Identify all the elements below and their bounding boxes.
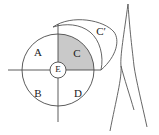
right-curve-outer-right	[128, 4, 147, 127]
right-curve-outer-left	[110, 4, 128, 131]
figure-container: A C B D C′ E	[0, 0, 159, 135]
label-region-c: C	[73, 47, 80, 59]
label-region-d: D	[74, 87, 82, 99]
label-region-e: E	[55, 64, 61, 74]
geometry-diagram: A C B D C′ E	[0, 0, 159, 135]
label-region-b: B	[34, 87, 41, 99]
label-region-a: A	[34, 46, 42, 58]
right-curve-inner	[121, 66, 134, 110]
label-region-c-prime: C′	[96, 25, 106, 37]
